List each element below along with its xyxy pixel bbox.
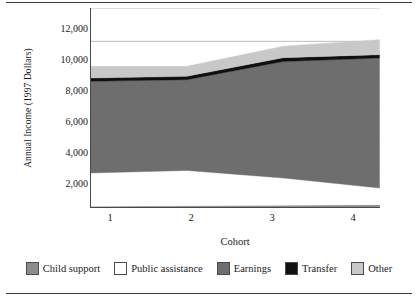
y-tick-label: 2,000 (36, 179, 88, 189)
chart-legend: Child support Public assistance Earnings… (0, 256, 418, 280)
x-tick-label: 3 (257, 212, 287, 223)
y-tick-label: 8,000 (36, 86, 88, 96)
legend-item-child-support[interactable]: Child support (26, 262, 100, 275)
y-tick-label: 4,000 (36, 148, 88, 158)
legend-swatch-icon (217, 262, 230, 275)
chart-axes (90, 8, 380, 208)
x-tick-label: 1 (95, 212, 125, 223)
y-axis-tick-labels: 12,000 10,000 8,000 6,000 4,000 2,000 (32, 8, 88, 208)
x-tick-label: 4 (338, 212, 368, 223)
stacked-area-plot (90, 8, 380, 208)
legend-label: Earnings (234, 263, 271, 274)
legend-item-earnings[interactable]: Earnings (217, 262, 271, 275)
legend-swatch-icon (26, 262, 39, 275)
y-tick-label: 12,000 (36, 24, 88, 34)
legend-item-other[interactable]: Other (351, 262, 392, 275)
y-tick-label: 6,000 (36, 117, 88, 127)
top-divider-rule (6, 2, 412, 3)
x-tick-label: 2 (176, 212, 206, 223)
legend-label: Public assistance (131, 263, 202, 274)
bottom-divider-rule (6, 293, 412, 294)
legend-swatch-icon (351, 262, 364, 275)
plot-area-wrapper: Annual Income (1997 Dollars) 12,000 10,0… (0, 8, 418, 248)
legend-item-transfer[interactable]: Transfer (285, 262, 337, 275)
legend-label: Child support (43, 263, 100, 274)
legend-swatch-icon (285, 262, 298, 275)
legend-swatch-icon (114, 262, 127, 275)
x-axis-title: Cohort (90, 236, 380, 247)
legend-label: Transfer (302, 263, 337, 274)
legend-label: Other (368, 263, 392, 274)
legend-item-public-assistance[interactable]: Public assistance (114, 262, 202, 275)
y-tick-label: 10,000 (36, 55, 88, 65)
figure-container: Annual Income (1997 Dollars) 12,000 10,0… (0, 0, 418, 300)
